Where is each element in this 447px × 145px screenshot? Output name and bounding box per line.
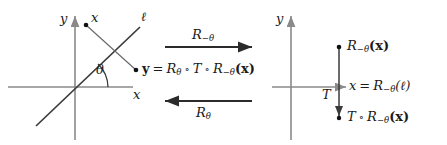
result-compose-2: ∘ xyxy=(204,63,209,76)
result-rot-pos-sub: θ xyxy=(176,67,181,77)
right-bottom-base: R xyxy=(367,109,377,124)
result-rot-pos: R xyxy=(166,61,176,76)
result-compose-1: ∘ xyxy=(184,63,189,76)
angle-theta-label: θ xyxy=(96,63,104,76)
right-axis-arg: (ℓ) xyxy=(395,78,410,93)
right-top-arg: (x) xyxy=(369,38,389,53)
line-ell-label: ℓ xyxy=(141,11,146,24)
point-x-label: x xyxy=(91,11,98,24)
right-top-sub: −θ xyxy=(357,44,369,54)
result-argument: (x) xyxy=(235,61,255,76)
translate-T-label: T xyxy=(322,88,331,101)
right-axis-x: x xyxy=(349,78,356,93)
right-bottom-sub: −θ xyxy=(377,115,389,125)
top-arrow-label: R−θ xyxy=(192,28,214,43)
left-y-axis-label: y xyxy=(60,12,67,25)
right-axis-equals: = xyxy=(359,78,370,93)
right-x-axis-label: x=R−θ(ℓ) xyxy=(349,79,410,94)
right-panel-axes xyxy=(272,16,346,140)
right-axis-base: R xyxy=(373,78,383,93)
top-arrow-label-sub: −θ xyxy=(202,33,214,43)
right-axis-sub: −θ xyxy=(383,84,395,94)
figure-canvas: y x ℓ x θ y=Rθ∘T∘R−θ(x) R−θ Rθ y T R−θ(x… xyxy=(0,0,447,145)
right-bottom-arg: (x) xyxy=(389,109,409,124)
result-equals: = xyxy=(153,61,164,76)
result-rot-neg: R xyxy=(213,61,223,76)
right-bottom-compose: ∘ xyxy=(359,111,364,124)
result-translate: T xyxy=(193,61,202,76)
right-bottom-point-label: T∘R−θ(x) xyxy=(347,110,409,125)
top-arrow-label-base: R xyxy=(192,27,202,42)
segment-x-to-y xyxy=(86,25,136,70)
result-point-y: y xyxy=(142,61,150,76)
point-y-marker xyxy=(134,68,139,73)
point-x-marker xyxy=(84,23,89,28)
left-result-equation: y=Rθ∘T∘R−θ(x) xyxy=(142,62,255,77)
line-ell xyxy=(36,27,140,126)
right-y-axis-label: y xyxy=(276,12,283,25)
result-rot-neg-sub: −θ xyxy=(223,67,235,77)
right-bottom-translate: T xyxy=(347,109,356,124)
bottom-arrow-label: Rθ xyxy=(196,106,211,121)
left-x-axis-label: x xyxy=(133,88,140,101)
point-T-rot-neg-theta-x-marker xyxy=(337,116,341,120)
left-panel-axes xyxy=(8,16,133,140)
bottom-arrow-label-sub: θ xyxy=(206,111,211,121)
right-top-base: R xyxy=(347,38,357,53)
bottom-arrow-label-base: R xyxy=(196,105,206,120)
right-top-point-label: R−θ(x) xyxy=(347,39,389,54)
point-rot-neg-theta-x-marker xyxy=(337,45,342,50)
